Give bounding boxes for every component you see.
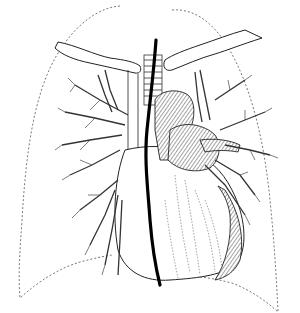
left-clavicle — [164, 30, 262, 70]
anatomy-illustration — [0, 0, 300, 313]
pulmonary-artery — [168, 125, 240, 171]
superior-vena-cava — [128, 70, 138, 150]
right-clavicle — [55, 42, 141, 73]
